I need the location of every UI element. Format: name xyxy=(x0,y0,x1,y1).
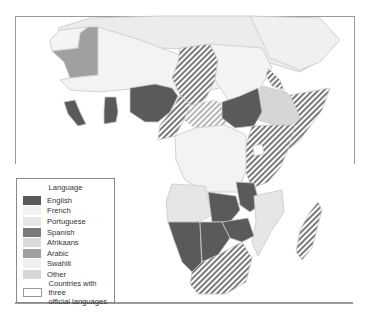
swatch-afrikaans xyxy=(23,238,41,247)
swatch-arabic xyxy=(23,249,41,258)
country-angola xyxy=(166,184,212,222)
legend-item-french: French xyxy=(17,206,114,217)
legend-label: Other xyxy=(47,270,66,279)
lake-victoria xyxy=(253,144,264,156)
legend-label: French xyxy=(47,206,71,215)
legend-item-swahili: Swahili xyxy=(17,259,114,270)
region-central-africa xyxy=(175,125,246,192)
legend-label: Arabic xyxy=(47,249,69,258)
swatch-spanish xyxy=(23,228,41,237)
legend-label-line2: official languages xyxy=(48,297,107,306)
swatch-french xyxy=(23,206,41,215)
legend-label: Spanish xyxy=(47,228,74,237)
country-eritrea xyxy=(266,68,284,90)
swatch-three-languages xyxy=(23,288,42,297)
legend-item-spanish: Spanish xyxy=(17,227,114,238)
legend-item-afrikaans: Afrikaans xyxy=(17,237,114,248)
swatch-portuguese xyxy=(23,217,41,226)
swatch-other xyxy=(23,270,41,279)
country-madagascar xyxy=(296,202,322,260)
country-liberia xyxy=(64,100,86,126)
legend-label: English xyxy=(47,196,72,205)
legend-item-three-languages: Countries with three official languages xyxy=(17,282,114,304)
legend-label-line1: Countries with three xyxy=(48,279,96,297)
legend-item-english: English xyxy=(17,195,114,206)
legend-label: Portuguese xyxy=(47,217,86,226)
country-mozambique xyxy=(252,190,284,256)
legend-item-arabic: Arabic xyxy=(17,248,114,259)
legend-label: Swahili xyxy=(47,259,71,268)
legend-item-portuguese: Portuguese xyxy=(17,216,114,227)
map-legend: Language English French Portuguese Spani… xyxy=(16,178,115,303)
legend-label: Afrikaans xyxy=(47,238,79,247)
country-zambia xyxy=(208,192,240,222)
swatch-swahili xyxy=(23,259,41,268)
legend-label: Countries with three official languages xyxy=(48,279,114,306)
swatch-english xyxy=(23,196,41,205)
legend-title: Language xyxy=(17,183,114,192)
country-ghana xyxy=(104,97,118,124)
region-east-africa xyxy=(244,125,295,188)
country-namibia xyxy=(168,222,202,272)
legend-item-other: Other xyxy=(17,269,114,280)
